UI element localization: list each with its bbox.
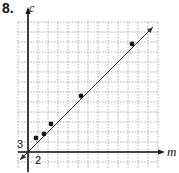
x-axis-label: m bbox=[167, 144, 176, 160]
x-tick-label: 2 bbox=[35, 154, 41, 166]
data-point bbox=[130, 42, 135, 47]
trend-line bbox=[20, 27, 153, 160]
data-point bbox=[49, 122, 54, 127]
data-point bbox=[42, 132, 47, 137]
scatter-plot bbox=[0, 0, 179, 173]
y-axis-label: c bbox=[29, 1, 34, 16]
data-points bbox=[34, 42, 135, 141]
data-point bbox=[34, 136, 39, 141]
y-tick-label: 3 bbox=[17, 138, 23, 150]
data-point bbox=[79, 94, 84, 99]
grid-lines bbox=[18, 22, 158, 168]
